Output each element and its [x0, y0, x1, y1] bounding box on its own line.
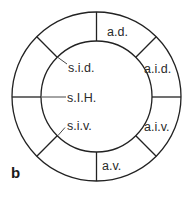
leader-s-i-d: [58, 58, 67, 65]
segment-label-a-i-d: a.i.d.: [144, 62, 171, 76]
pointer-label-s-i-d: s.i.d.: [68, 61, 94, 75]
pointer-label-s-i-v: s.i.v.: [67, 119, 92, 133]
segment-label-a-d: a.d.: [107, 25, 128, 39]
divider-upper-left: [37, 37, 57, 57]
divider-upper-right: [136, 37, 156, 57]
panel-label: b: [11, 164, 20, 181]
segment-label-a-i-v: a.i.v.: [144, 120, 169, 134]
ring-diagram: a.d. a.i.d. a.i.v. a.v. s.i.d. s.I.H. s.…: [0, 0, 188, 198]
divider-lower-left: [37, 136, 57, 156]
pointer-label-s-l-h: s.I.H.: [67, 91, 96, 105]
leader-s-i-v: [58, 128, 65, 136]
divider-lower-right: [136, 136, 156, 156]
segment-label-a-v: a.v.: [102, 159, 121, 173]
inner-ring: [41, 41, 152, 152]
